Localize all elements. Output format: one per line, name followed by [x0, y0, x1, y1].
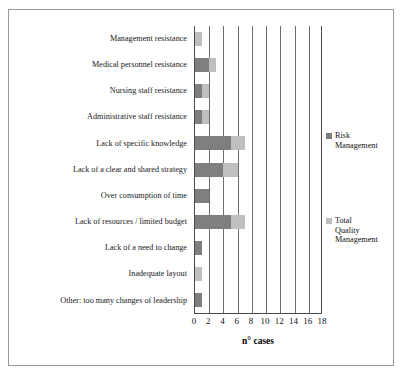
bar-rows — [195, 26, 321, 313]
bar-stack[interactable] — [195, 215, 245, 229]
bar-row — [195, 235, 321, 261]
category-label: Other: too many changes of leadership — [14, 288, 192, 314]
legend-item-total-quality-management[interactable]: Total Quality Management — [326, 216, 378, 245]
category-label: Administrative staff resistance — [14, 105, 192, 131]
x-tick-label: 0 — [192, 316, 197, 326]
bar-row — [195, 287, 321, 313]
bar-segment — [195, 110, 202, 124]
bar-segment — [231, 136, 245, 150]
chart-figure: Management resistanceMedical personnel r… — [0, 0, 403, 375]
legend-swatch-icon-total-quality-management — [326, 218, 332, 224]
category-label: Medical personnel resistance — [14, 52, 192, 78]
x-tick-label: 6 — [234, 316, 239, 326]
legend-label-risk-management: Risk Management — [335, 131, 378, 150]
bar-stack[interactable] — [195, 189, 209, 203]
category-label: Nursing staff resistance — [14, 78, 192, 104]
bar-stack[interactable] — [195, 136, 245, 150]
bar-segment — [231, 215, 245, 229]
bar-row — [195, 104, 321, 130]
legend-label-total-quality-management: Total Quality Management — [335, 216, 378, 245]
bar-stack[interactable] — [195, 267, 202, 281]
bar-segment — [202, 110, 209, 124]
bar-row — [195, 52, 321, 78]
bar-stack[interactable] — [195, 163, 238, 177]
bar-stack[interactable] — [195, 110, 209, 124]
category-label: Lack of a need to change — [14, 236, 192, 262]
bar-row — [195, 209, 321, 235]
category-label: Inadequate layout — [14, 262, 192, 288]
bar-stack[interactable] — [195, 241, 202, 255]
legend: Risk Management Total Quality Management — [326, 26, 392, 314]
x-tick-label: 2 — [206, 316, 211, 326]
bar-row — [195, 26, 321, 52]
bar-segment — [209, 58, 216, 72]
bar-segment — [195, 293, 202, 307]
bar-segment — [195, 241, 202, 255]
bar-segment — [195, 267, 202, 281]
bar-stack[interactable] — [195, 293, 202, 307]
x-axis-title: n° cases — [194, 336, 322, 346]
bar-stack[interactable] — [195, 84, 209, 98]
category-label: Lack of resources / limited budget — [14, 209, 192, 235]
bar-row — [195, 130, 321, 156]
category-label: Over consumption of time — [14, 183, 192, 209]
x-tick-label: 14 — [289, 316, 298, 326]
category-label: Lack of a clear and shared strategy — [14, 157, 192, 183]
bar-row — [195, 183, 321, 209]
bar-segment — [202, 84, 209, 98]
bar-stack[interactable] — [195, 58, 216, 72]
plot-area — [194, 26, 322, 314]
x-tick-label: 16 — [303, 316, 312, 326]
bar-row — [195, 78, 321, 104]
bar-segment — [195, 32, 202, 46]
bar-row — [195, 261, 321, 287]
x-tick-label: 12 — [275, 316, 284, 326]
x-tick-label: 4 — [220, 316, 225, 326]
x-tick-label: 10 — [261, 316, 270, 326]
legend-swatch-icon-risk-management — [326, 133, 332, 139]
x-axis-tick-labels: 024681012141618 — [194, 316, 322, 330]
bar-stack[interactable] — [195, 32, 202, 46]
bar-segment — [195, 136, 231, 150]
bar-segment — [195, 163, 223, 177]
category-label: Lack of specific knowledge — [14, 131, 192, 157]
bar-segment — [195, 189, 209, 203]
x-tick-label: 18 — [318, 316, 327, 326]
bar-segment — [195, 84, 202, 98]
legend-item-risk-management[interactable]: Risk Management — [326, 131, 378, 150]
bar-segment — [195, 58, 209, 72]
x-tick-label: 8 — [249, 316, 254, 326]
category-label: Management resistance — [14, 26, 192, 52]
bar-row — [195, 156, 321, 182]
bar-segment — [195, 215, 231, 229]
category-axis-labels: Management resistanceMedical personnel r… — [14, 26, 192, 314]
bar-segment — [223, 163, 237, 177]
